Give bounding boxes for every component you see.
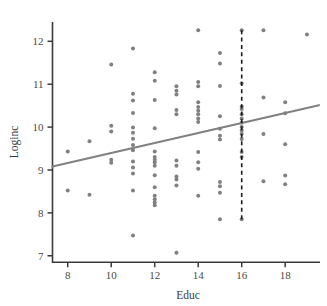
data-point bbox=[153, 70, 157, 74]
data-point bbox=[66, 189, 70, 193]
x-tick-label: 8 bbox=[65, 269, 71, 281]
data-point bbox=[174, 251, 178, 255]
data-points-layer bbox=[66, 28, 309, 255]
data-point bbox=[174, 112, 178, 116]
data-point bbox=[174, 183, 178, 187]
y-tick-label: 9 bbox=[38, 164, 44, 176]
data-point bbox=[261, 28, 265, 32]
data-point bbox=[218, 191, 222, 195]
data-point bbox=[153, 185, 157, 189]
data-point bbox=[153, 98, 157, 102]
data-point bbox=[153, 173, 157, 177]
data-point bbox=[131, 159, 135, 163]
y-tick-label: 8 bbox=[38, 207, 44, 219]
data-point bbox=[261, 132, 265, 136]
data-point bbox=[283, 100, 287, 104]
data-point bbox=[131, 126, 135, 130]
data-point bbox=[109, 62, 113, 66]
data-point bbox=[174, 108, 178, 112]
data-point bbox=[174, 92, 178, 96]
data-point bbox=[131, 111, 135, 115]
data-point bbox=[153, 197, 157, 201]
data-point bbox=[218, 184, 222, 188]
data-point bbox=[131, 143, 135, 147]
data-point bbox=[109, 124, 113, 128]
data-point bbox=[196, 194, 200, 198]
data-point bbox=[218, 51, 222, 55]
data-point bbox=[153, 126, 157, 130]
data-point bbox=[109, 129, 113, 133]
data-point bbox=[218, 217, 222, 221]
y-axis-tick-labels: 789101112 bbox=[33, 35, 45, 261]
data-point bbox=[218, 138, 222, 142]
data-point bbox=[131, 234, 135, 238]
x-axis-title: Educ bbox=[176, 289, 200, 301]
plot-canvas: 789101112 81012141618 Educ Loginc bbox=[0, 0, 327, 306]
data-point bbox=[174, 84, 178, 88]
data-point bbox=[261, 179, 265, 183]
data-point bbox=[196, 120, 200, 124]
data-point bbox=[218, 134, 222, 138]
data-point bbox=[218, 114, 222, 118]
data-point bbox=[283, 174, 287, 178]
data-point bbox=[196, 117, 200, 121]
data-point bbox=[283, 142, 287, 146]
data-point bbox=[131, 92, 135, 96]
data-point bbox=[218, 180, 222, 184]
scatter-plot-figure: 789101112 81012141618 Educ Loginc bbox=[0, 0, 327, 306]
x-tick-label: 12 bbox=[149, 269, 160, 281]
data-point bbox=[131, 131, 135, 135]
data-point bbox=[196, 100, 200, 104]
data-point bbox=[218, 62, 222, 66]
data-point bbox=[87, 193, 91, 197]
data-point bbox=[196, 112, 200, 116]
data-point bbox=[305, 32, 309, 36]
data-point bbox=[174, 164, 178, 168]
data-point bbox=[196, 105, 200, 109]
data-point bbox=[196, 167, 200, 171]
data-point bbox=[196, 160, 200, 164]
x-tick-label: 10 bbox=[106, 269, 118, 281]
x-tick-label: 14 bbox=[193, 269, 205, 281]
data-point bbox=[131, 137, 135, 141]
data-point bbox=[196, 150, 200, 154]
data-point bbox=[153, 79, 157, 83]
data-point bbox=[196, 84, 200, 88]
y-tick-label: 11 bbox=[33, 78, 44, 90]
data-point bbox=[131, 189, 135, 193]
data-point bbox=[174, 177, 178, 181]
data-point bbox=[196, 80, 200, 84]
y-tick-label: 10 bbox=[33, 121, 45, 133]
data-point bbox=[66, 150, 70, 154]
data-point bbox=[218, 84, 222, 88]
data-point bbox=[153, 160, 157, 164]
data-point bbox=[153, 203, 157, 207]
data-point bbox=[131, 98, 135, 102]
data-point bbox=[196, 109, 200, 113]
data-point bbox=[261, 95, 265, 99]
data-point bbox=[174, 159, 178, 163]
x-axis-tick-labels: 81012141618 bbox=[65, 269, 291, 281]
x-tick-label: 16 bbox=[236, 269, 248, 281]
y-tick-label: 7 bbox=[38, 250, 44, 262]
data-point bbox=[87, 139, 91, 143]
data-point bbox=[283, 182, 287, 186]
data-point bbox=[109, 161, 113, 165]
data-point bbox=[196, 28, 200, 32]
data-point bbox=[153, 150, 157, 154]
data-point bbox=[131, 47, 135, 51]
data-point bbox=[153, 194, 157, 198]
data-point bbox=[131, 165, 135, 169]
data-point bbox=[174, 89, 178, 93]
y-axis-title: Loginc bbox=[8, 126, 21, 159]
data-point bbox=[131, 171, 135, 175]
y-tick-label: 12 bbox=[33, 35, 44, 47]
x-tick-label: 18 bbox=[280, 269, 292, 281]
regression-line bbox=[53, 105, 319, 166]
data-point bbox=[153, 164, 157, 168]
